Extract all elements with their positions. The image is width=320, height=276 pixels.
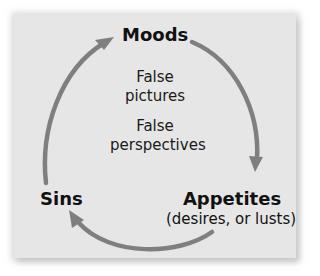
node-sins: Sins — [40, 188, 82, 209]
node-moods: Moods — [122, 24, 188, 45]
note-line: perspectives — [110, 136, 200, 155]
note-line: False — [110, 117, 200, 136]
arrowhead-icon — [249, 156, 263, 172]
center-note: False pictures False perspectives — [110, 68, 200, 155]
node-appetites: Appetites — [182, 188, 282, 209]
node-appetites-sublabel: (desires, or lusts) — [166, 210, 290, 228]
arrow-sins-to-moods — [45, 37, 114, 183]
note-line: pictures — [110, 87, 200, 106]
note-line: False — [110, 68, 200, 87]
